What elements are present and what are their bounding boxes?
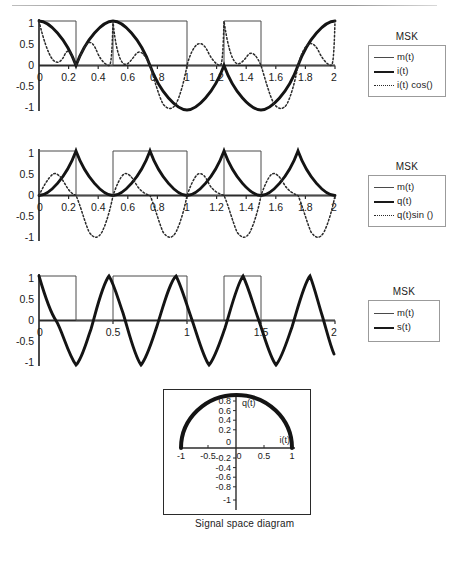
legend-item-q-t: q(t) [373, 194, 439, 208]
legend-swatch-thick-line-icon [373, 66, 395, 76]
x-tick-label: 1 [184, 326, 190, 338]
legend-item-label: q(t)sin () [397, 210, 433, 220]
ssd-x-tick-label: 0.5 [258, 451, 271, 461]
x-tick-label: 2 [331, 326, 337, 338]
y-tick-label: 0 [28, 59, 34, 71]
legend-swatch-thin-line-icon [373, 52, 395, 62]
legend-title: MSK [368, 161, 446, 172]
legend-box: m(t) q(t) q(t)sin () [368, 175, 446, 227]
legend-item-s-t: s(t) [373, 320, 433, 334]
legend-item-label: m(t) [397, 52, 414, 62]
x-tick-label: 0.6 [120, 71, 135, 83]
x-tick-label: 0.5 [106, 326, 121, 338]
legend-swatch-thick-line-icon [373, 196, 395, 206]
panel-s-legend: MSK m(t) s(t) [368, 286, 440, 342]
ssd-x-tick-label: -0.5 [200, 451, 216, 461]
x-tick-label: 0.4 [91, 71, 106, 83]
ssd-y-tick-label: 0.4 [218, 415, 231, 425]
y-tick-label: -0.5 [16, 210, 34, 222]
legend-item-label: i(t) [397, 66, 408, 76]
msk-figure: 1 0.5 0 -0.5 -1 [0, 0, 449, 562]
x-tick-label: 0 [37, 71, 43, 83]
x-tick-label: 0.4 [91, 201, 106, 213]
legend-item-label: i(t) cos() [397, 80, 433, 90]
legend-swatch-thick-line-icon [373, 322, 395, 332]
legend-swatch-dotted-line-icon [373, 210, 395, 220]
y-tick-label: 0 [28, 189, 34, 201]
series-m-t [39, 276, 335, 321]
y-tick-label: -1 [25, 231, 34, 243]
ssd-y-tick-label: -0.6 [215, 472, 231, 482]
legend-item-label: q(t) [397, 196, 412, 206]
legend-item-m-t: m(t) [373, 180, 439, 194]
panel-i-y-axis: 1 0.5 0 -0.5 -1 [16, 17, 39, 113]
x-tick-label: 1.6 [268, 201, 283, 213]
panel-q-chart: 1 0.5 0 -0.5 -1 [8, 146, 358, 271]
ssd-y-axis-label: q(t) [242, 398, 256, 408]
legend-title: MSK [368, 31, 446, 42]
panel-q-legend: MSK m(t) q(t) q(t)sin () [368, 161, 446, 227]
signal-space-diagram: 0.8 0.6 0.4 0.2 0 -0.2 -0.4 -0.6 -0.8 -1… [163, 389, 311, 515]
x-tick-label: 1.4 [239, 71, 254, 83]
legend-box: m(t) i(t) i(t) cos() [368, 45, 446, 97]
x-tick-label: 0 [37, 201, 43, 213]
x-tick-label: 1.2 [209, 201, 224, 213]
y-tick-label: -0.5 [16, 335, 34, 347]
x-tick-label: 1 [184, 71, 190, 83]
x-tick-label: 0.6 [120, 201, 135, 213]
y-tick-label: -1 [25, 101, 34, 113]
signal-space-caption: Signal space diagram [195, 518, 294, 529]
y-tick-label: 0 [28, 314, 34, 326]
legend-item-label: m(t) [397, 182, 414, 192]
panel-q-y-axis: 1 0.5 0 -0.5 -1 [16, 147, 39, 243]
ssd-y-tick-label: -1 [223, 495, 231, 505]
ssd-y-tick-label: -0.8 [215, 482, 231, 492]
legend-title: MSK [368, 286, 440, 297]
ssd-x-axis-label: i(t) [280, 435, 291, 445]
top-divider-rule [12, 5, 437, 6]
y-tick-label: 0.5 [19, 168, 34, 180]
ssd-y-tick-label: -0.4 [215, 463, 231, 473]
legend-item-m-t: m(t) [373, 306, 433, 320]
legend-item-m-t: m(t) [373, 50, 439, 64]
ssd-origin-label: 0 [236, 451, 241, 461]
y-tick-label: -0.5 [16, 80, 34, 92]
legend-item-q-t-sin: q(t)sin () [373, 208, 439, 222]
legend-item-label: m(t) [397, 308, 414, 318]
x-tick-label: 0.2 [61, 201, 76, 213]
y-tick-label: 0.5 [19, 293, 34, 305]
legend-item-i-t: i(t) [373, 64, 439, 78]
x-tick-label: 0 [37, 326, 43, 338]
y-tick-label: 1 [28, 272, 34, 284]
series-m-t [39, 151, 335, 196]
y-tick-label: 1 [28, 17, 34, 29]
y-tick-label: 0.5 [19, 38, 34, 50]
panel-q-svg: 1 0.5 0 -0.5 -1 [8, 146, 358, 271]
ssd-x-tick-label: 1 [289, 451, 294, 461]
panel-i-svg: 1 0.5 0 -0.5 -1 [8, 16, 358, 141]
x-tick-label: 1 [184, 201, 190, 213]
x-tick-label: 0.2 [61, 71, 76, 83]
signal-space-svg: 0.8 0.6 0.4 0.2 0 -0.2 -0.4 -0.6 -0.8 -1… [164, 390, 308, 512]
ssd-y-tick-label: 0.6 [218, 406, 231, 416]
ssd-y-tick-label: -0.2 [215, 453, 231, 463]
x-tick-label: 1.8 [298, 71, 313, 83]
x-tick-label: 1.4 [239, 201, 254, 213]
legend-item-i-t-cos: i(t) cos() [373, 78, 439, 92]
panel-s-svg: 1 0.5 0 -0.5 -1 0 0.5 1 1.5 2 [8, 271, 358, 381]
ssd-y-tick-label: 0.2 [218, 425, 231, 435]
panel-s-y-axis: 1 0.5 0 -0.5 -1 [16, 272, 39, 368]
panel-i-chart: 1 0.5 0 -0.5 -1 [8, 16, 358, 141]
y-tick-label: -1 [25, 356, 34, 368]
legend-box: m(t) s(t) [368, 300, 440, 342]
legend-swatch-dotted-line-icon [373, 80, 395, 90]
series-m-t [39, 21, 335, 66]
ssd-y-tick-labels: 0.8 0.6 0.4 0.2 0 -0.2 -0.4 -0.6 -0.8 -1 [215, 396, 231, 505]
ssd-y-tick-label: 0 [226, 437, 231, 447]
x-tick-label: 2 [331, 71, 337, 83]
legend-item-label: s(t) [397, 322, 411, 332]
panel-i-legend: MSK m(t) i(t) i(t) cos() [368, 31, 446, 97]
legend-swatch-thin-line-icon [373, 308, 395, 318]
panel-s-chart: 1 0.5 0 -0.5 -1 0 0.5 1 1.5 2 [8, 271, 358, 381]
x-tick-label: 1.6 [268, 71, 283, 83]
